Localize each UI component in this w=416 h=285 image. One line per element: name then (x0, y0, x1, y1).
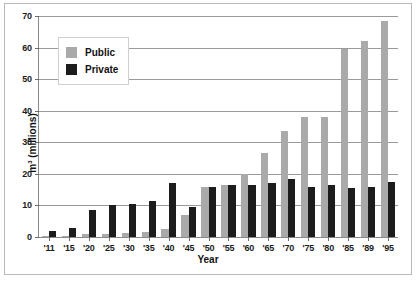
bar-group (39, 16, 59, 237)
x-tick-label: '55 (223, 243, 235, 253)
bar-private (89, 210, 96, 237)
bar-public (261, 153, 268, 237)
y-tick-mark (35, 237, 39, 238)
bar-group (258, 16, 278, 237)
x-tick-label: '11 (43, 243, 54, 253)
x-tick-label: '35 (143, 243, 155, 253)
y-tick-label: 50 (22, 74, 32, 84)
bar-public (241, 174, 248, 237)
x-tick-mark (268, 237, 269, 241)
bar-private (69, 228, 76, 237)
x-tick-mark (169, 237, 170, 241)
x-tick-label: '30 (123, 243, 135, 253)
bar-private (388, 182, 395, 237)
x-tick-mark (49, 237, 50, 241)
x-tick-mark (209, 237, 210, 241)
x-tick-mark (69, 237, 70, 241)
chart-figure: m3 (millions) 010203040506070 '11'15'20'… (0, 0, 416, 285)
y-tick-label: 20 (22, 169, 32, 179)
bar-public (321, 117, 328, 237)
x-tick-mark (388, 237, 389, 241)
bar-private (109, 205, 116, 237)
y-tick-label: 0 (27, 232, 32, 242)
bar-public (181, 215, 188, 237)
bar-group (338, 16, 358, 237)
y-tick-label: 70 (22, 11, 32, 21)
bar-public (301, 117, 308, 237)
x-tick-label: '45 (183, 243, 195, 253)
bar-private (268, 183, 275, 237)
x-tick-label: '50 (203, 243, 215, 253)
bar-private (308, 187, 315, 238)
bar-private (209, 187, 216, 238)
bar-group (139, 16, 159, 237)
bar-group (219, 16, 239, 237)
bar-private (248, 185, 255, 237)
x-tick-mark (189, 237, 190, 241)
x-tick-mark (228, 237, 229, 241)
bar-private (328, 185, 335, 237)
y-tick-label: 60 (22, 43, 32, 53)
bar-group (318, 16, 338, 237)
bar-private (228, 185, 235, 237)
x-tick-mark (368, 237, 369, 241)
bar-private (288, 179, 295, 237)
bar-public (42, 236, 49, 237)
bar-private (368, 187, 375, 238)
bar-public (281, 131, 288, 237)
bar-public (142, 232, 149, 237)
bar-public (221, 185, 228, 237)
x-tick-label: '75 (302, 243, 314, 253)
x-tick-label: '60 (243, 243, 255, 253)
x-tick-mark (348, 237, 349, 241)
bar-public (361, 41, 368, 237)
x-tick-label: '89 (362, 243, 374, 253)
legend-label-private: Private (85, 64, 118, 75)
x-tick-mark (308, 237, 309, 241)
bar-public (341, 49, 348, 237)
y-tick-label: 40 (22, 106, 32, 116)
x-tick-label: '95 (382, 243, 394, 253)
bar-public (82, 234, 89, 237)
bar-private (348, 188, 355, 237)
bar-private (169, 183, 176, 237)
chart-legend: Public Private (58, 37, 129, 85)
x-tick-mark (129, 237, 130, 241)
x-tick-mark (288, 237, 289, 241)
bar-private (129, 204, 136, 237)
public-swatch (66, 47, 77, 58)
legend-item-public: Public (66, 44, 118, 61)
x-tick-label: '25 (103, 243, 115, 253)
bar-group (358, 16, 378, 237)
x-tick-mark (89, 237, 90, 241)
bar-public (381, 21, 388, 237)
bar-group (298, 16, 318, 237)
bar-public (161, 229, 168, 237)
x-tick-label: '65 (263, 243, 275, 253)
x-tick-mark (248, 237, 249, 241)
x-tick-label: '85 (342, 243, 354, 253)
x-tick-mark (149, 237, 150, 241)
y-tick-label: 10 (22, 200, 32, 210)
bar-private (49, 231, 56, 237)
x-tick-mark (328, 237, 329, 241)
legend-label-public: Public (85, 47, 115, 58)
bar-public (62, 236, 69, 237)
x-tick-mark (109, 237, 110, 241)
x-tick-label: '20 (83, 243, 95, 253)
bar-group (199, 16, 219, 237)
x-tick-label: '15 (63, 243, 75, 253)
bar-public (102, 234, 109, 237)
x-tick-label: '80 (322, 243, 334, 253)
bar-public (122, 233, 129, 237)
bar-group (378, 16, 398, 237)
bar-public (201, 187, 208, 238)
bar-group (238, 16, 258, 237)
bar-group (159, 16, 179, 237)
private-swatch (66, 64, 77, 75)
y-tick-label: 30 (22, 137, 32, 147)
bar-private (189, 207, 196, 237)
x-tick-label: '40 (163, 243, 175, 253)
x-tick-label: '70 (283, 243, 295, 253)
bar-private (149, 201, 156, 237)
